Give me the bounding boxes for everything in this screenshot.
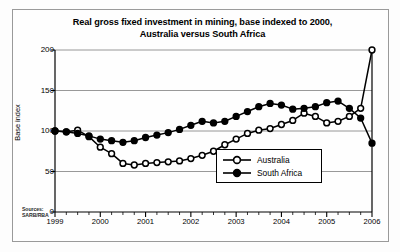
- data-point-south-africa-11: [177, 126, 183, 132]
- legend-item-australia: Australia: [222, 153, 316, 166]
- data-series-layer: [52, 47, 375, 168]
- data-point-australia-28: [369, 47, 375, 53]
- open-circle-marker-icon: [222, 154, 252, 166]
- data-point-australia-10: [165, 159, 171, 165]
- data-point-australia-17: [245, 131, 251, 137]
- data-point-australia-6: [120, 161, 126, 167]
- data-point-south-africa-5: [109, 138, 115, 144]
- data-point-australia-21: [290, 118, 296, 124]
- data-point-south-africa-0: [52, 128, 58, 134]
- data-point-south-africa-12: [188, 122, 194, 128]
- data-point-australia-9: [154, 160, 160, 166]
- legend-item-south-africa: South Africa: [222, 166, 316, 179]
- data-point-south-africa-4: [97, 136, 103, 142]
- data-point-south-africa-6: [120, 139, 126, 145]
- data-point-south-africa-26: [346, 105, 352, 111]
- data-point-south-africa-21: [290, 106, 296, 112]
- data-point-australia-13: [199, 152, 205, 158]
- data-point-australia-20: [279, 122, 285, 128]
- data-point-south-africa-24: [324, 100, 330, 106]
- data-point-australia-26: [346, 114, 352, 120]
- filled-circle-marker-icon: [222, 167, 252, 179]
- data-point-south-africa-10: [165, 130, 171, 136]
- source-note: Sources: SARB/RBA: [22, 206, 49, 218]
- data-point-australia-19: [267, 126, 273, 132]
- data-point-south-africa-2: [75, 131, 81, 137]
- legend-label-south-africa: South Africa: [257, 168, 302, 178]
- data-point-australia-12: [188, 156, 194, 162]
- data-point-south-africa-1: [63, 129, 69, 135]
- data-point-australia-5: [109, 151, 115, 157]
- data-point-south-africa-18: [256, 104, 262, 110]
- data-point-australia-4: [97, 144, 103, 150]
- data-point-australia-15: [222, 142, 228, 148]
- data-point-south-africa-3: [86, 133, 92, 139]
- data-point-australia-7: [131, 162, 137, 168]
- chart-legend: Australia South Africa: [216, 149, 322, 183]
- data-point-south-africa-23: [312, 104, 318, 110]
- data-point-south-africa-28: [369, 140, 375, 146]
- tick-marks: [55, 212, 372, 217]
- data-point-south-africa-19: [267, 101, 273, 107]
- legend-label-australia: Australia: [257, 155, 290, 165]
- data-point-south-africa-17: [245, 109, 251, 115]
- data-point-south-africa-22: [301, 105, 307, 111]
- data-point-australia-27: [358, 105, 364, 111]
- data-point-south-africa-7: [131, 138, 137, 144]
- data-point-south-africa-15: [222, 118, 228, 124]
- chart-plot-area: [0, 0, 400, 252]
- data-point-australia-11: [177, 158, 183, 164]
- data-point-australia-18: [256, 127, 262, 133]
- data-point-australia-23: [312, 114, 318, 120]
- data-point-south-africa-9: [154, 132, 160, 138]
- data-point-south-africa-14: [211, 120, 217, 126]
- data-point-australia-25: [335, 118, 341, 124]
- data-point-south-africa-13: [199, 118, 205, 124]
- chart-figure: Real gross fixed investment in mining, b…: [0, 0, 400, 252]
- data-point-south-africa-16: [233, 114, 239, 120]
- data-point-australia-24: [324, 120, 330, 126]
- source-line-2: SARB/RBA: [22, 212, 49, 218]
- data-point-south-africa-20: [279, 102, 285, 108]
- data-point-south-africa-8: [143, 135, 149, 141]
- gridlines: [55, 50, 372, 212]
- data-point-south-africa-27: [358, 115, 364, 121]
- data-point-australia-16: [233, 136, 239, 142]
- data-point-south-africa-25: [335, 98, 341, 104]
- data-point-australia-8: [143, 161, 149, 167]
